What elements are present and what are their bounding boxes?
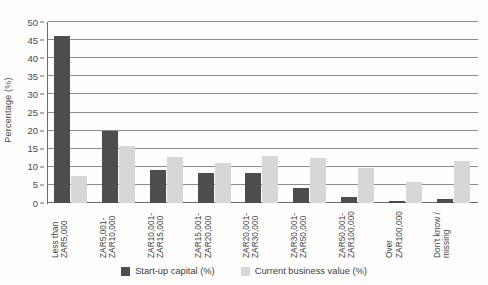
x-tick-label-line: ZAR20,001- [243, 206, 251, 258]
y-tick-label: 40 [27, 53, 38, 63]
y-tick-mark [40, 184, 44, 185]
y-axis-title-text: Percentage (%) [3, 77, 13, 142]
x-tick-label-line: ZAR5,001- [100, 206, 108, 258]
y-tick-mark [40, 22, 44, 23]
x-tick-label-line: ZAR20,000 [205, 206, 213, 258]
bar-startup-capital [293, 188, 309, 203]
bar-startup-capital [389, 201, 405, 203]
x-axis-labels: Less thanZAR5,000ZAR5,001-ZAR10,000ZAR10… [48, 206, 478, 258]
y-tick-label: 5 [33, 180, 38, 190]
x-tick-label-line: ZAR30,001- [291, 206, 299, 258]
bar-current-business-value [262, 156, 278, 203]
x-tick-label-line: missing [443, 206, 451, 258]
y-tick-mark [40, 58, 44, 59]
bar-current-business-value [71, 176, 87, 203]
bar-startup-capital [150, 170, 166, 203]
bar-current-business-value [167, 157, 183, 203]
x-tick-label-line: Don't know / [434, 206, 442, 258]
y-axis-title: Percentage (%) [0, 55, 16, 165]
legend-label: Start-up capital (%) [135, 266, 215, 276]
x-tick-label: OverZAR100,000 [386, 206, 434, 258]
bar-group [430, 22, 478, 203]
bar-current-business-value [454, 161, 470, 203]
bar-startup-capital [54, 36, 70, 203]
x-tick-label: ZAR20,001-ZAR30,000 [243, 206, 291, 258]
y-tick-label: 15 [27, 144, 38, 154]
y-tick-label: 50 [27, 17, 38, 27]
x-tick-label-line: ZAR30,000 [252, 206, 260, 258]
bar-current-business-value [119, 146, 135, 203]
x-tick-label: ZAR30,001-ZAR50,000 [291, 206, 339, 258]
x-tick-label: ZAR5,001-ZAR10,000 [100, 206, 148, 258]
x-tick-label-line: ZAR5,000 [61, 206, 69, 258]
legend-swatch-icon [121, 267, 130, 276]
x-tick-label-line: ZAR100,000 [396, 206, 404, 258]
bar-group [382, 22, 430, 203]
bar-startup-capital [341, 197, 357, 203]
bar-group [335, 22, 383, 203]
x-tick-label: ZAR10,001-ZAR15,000 [148, 206, 196, 258]
y-tick-label: 20 [27, 126, 38, 136]
y-tick-mark [40, 166, 44, 167]
bar-current-business-value [406, 182, 422, 203]
bar-group [191, 22, 239, 203]
x-tick-label-line: ZAR10,001- [148, 206, 156, 258]
bar-group [287, 22, 335, 203]
bar-group [144, 22, 192, 203]
x-tick-label-line: ZAR100,000 [348, 206, 356, 258]
bar-current-business-value [310, 158, 326, 203]
y-tick-mark [40, 112, 44, 113]
y-tick-label: 0 [33, 198, 38, 208]
bar-startup-capital [245, 173, 261, 203]
y-tick-mark [40, 130, 44, 131]
bar-group [48, 22, 96, 203]
x-tick-label-line: ZAR50,000 [300, 206, 308, 258]
bar-group [239, 22, 287, 203]
bar-startup-capital [102, 131, 118, 203]
x-tick-label: Less thanZAR5,000 [52, 206, 100, 258]
x-tick-label-line: ZAR50,001- [339, 206, 347, 258]
y-axis-ticks: 05101520253035404550 [18, 22, 44, 203]
y-tick-label: 10 [27, 162, 38, 172]
x-tick-label-line: Less than [52, 206, 60, 258]
legend-item[interactable]: Current business value (%) [241, 266, 367, 276]
x-tick-label-line: ZAR15,000 [157, 206, 165, 258]
bar-startup-capital [437, 199, 453, 203]
y-tick-mark [40, 94, 44, 95]
x-tick-label-line: ZAR10,000 [109, 206, 117, 258]
bar-current-business-value [215, 163, 231, 203]
bars-layer [48, 22, 478, 203]
y-tick-label: 35 [27, 72, 38, 82]
legend-label: Current business value (%) [255, 266, 367, 276]
y-tick-mark [40, 203, 44, 204]
x-tick-label-line: Over [386, 206, 394, 258]
y-tick-mark [40, 148, 44, 149]
chart-legend: Start-up capital (%)Current business val… [0, 262, 488, 280]
x-tick-label-line: ZAR15,001- [195, 206, 203, 258]
x-tick-label: ZAR15,001-ZAR20,000 [195, 206, 243, 258]
x-tick-label: ZAR50,001-ZAR100,000 [339, 206, 387, 258]
y-tick-label: 30 [27, 90, 38, 100]
legend-item[interactable]: Start-up capital (%) [121, 266, 215, 276]
legend-swatch-icon [241, 267, 250, 276]
bar-current-business-value [358, 168, 374, 203]
y-tick-mark [40, 40, 44, 41]
x-tick-label: Don't know /missing [434, 206, 482, 258]
y-tick-label: 25 [27, 108, 38, 118]
bar-startup-capital [198, 173, 214, 203]
bar-chart: Percentage (%) 05101520253035404550 Less… [0, 0, 488, 285]
y-tick-label: 45 [27, 35, 38, 45]
bar-group [96, 22, 144, 203]
y-tick-mark [40, 76, 44, 77]
